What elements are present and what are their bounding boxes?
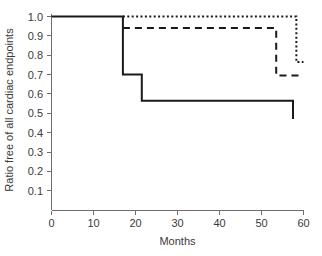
x-tick-marks [52, 211, 304, 216]
kaplan-meier-plot: Ratio free of all cardiac endpoints 1.0 … [0, 0, 322, 256]
y-axis-title: Ratio free of all cardiac endpoints [3, 28, 15, 192]
y-tick-label: 0.9 [28, 30, 43, 42]
dashed-curve [123, 28, 304, 75]
y-tick-label: 0.8 [28, 49, 43, 61]
y-tick-label: 0.5 [28, 107, 43, 119]
x-tick-label: 0 [48, 217, 54, 229]
x-tick-label: 20 [129, 217, 141, 229]
y-tick-label: 1.0 [28, 11, 43, 23]
y-tick-label: 0.2 [28, 165, 43, 177]
y-tick-label: 0.1 [28, 185, 43, 197]
x-tick-label: 60 [297, 217, 309, 229]
x-axis-title: Months [159, 235, 196, 247]
chart-figure: Ratio free of all cardiac endpoints 1.0 … [0, 0, 322, 256]
y-tick-label: 0.6 [28, 88, 43, 100]
solid-curve [52, 17, 294, 120]
x-tick-labels: 0 10 20 30 40 50 60 [48, 217, 309, 229]
x-tick-label: 50 [255, 217, 267, 229]
x-tick-label: 10 [87, 217, 99, 229]
y-tick-label: 0.3 [28, 146, 43, 158]
x-tick-label: 40 [213, 217, 225, 229]
y-tick-labels: 1.0 0.9 0.8 0.7 0.6 0.5 0.4 0.3 0.2 0.1 [28, 11, 43, 197]
y-tick-marks [47, 17, 52, 191]
y-tick-label: 0.7 [28, 69, 43, 81]
x-tick-label: 30 [171, 217, 183, 229]
y-tick-label: 0.4 [28, 127, 43, 139]
